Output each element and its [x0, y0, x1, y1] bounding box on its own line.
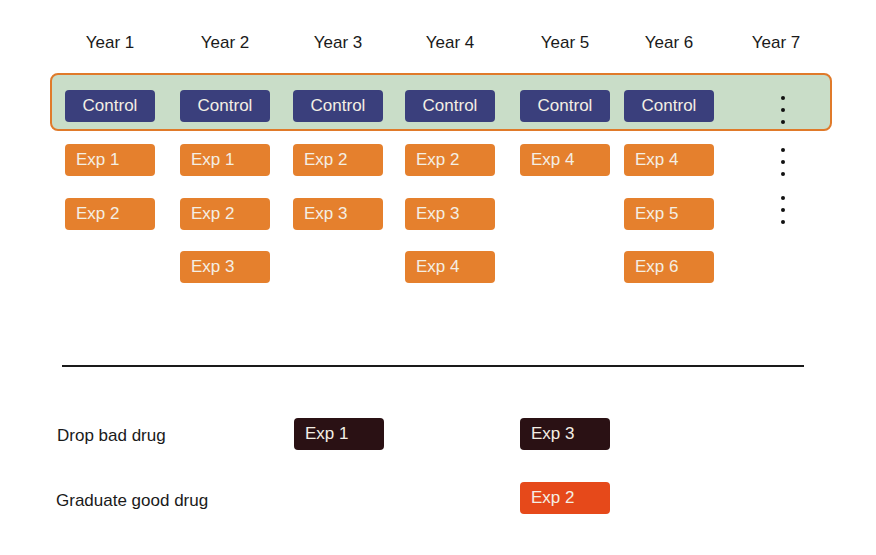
graduate-good-drug-label: Graduate good drug	[56, 491, 208, 511]
control-box-year-3: Control	[293, 90, 383, 122]
section-divider	[62, 365, 804, 367]
year-4-header: Year 4	[400, 33, 500, 53]
year-3-header: Year 3	[288, 33, 388, 53]
exp-box: Exp 4	[520, 144, 610, 176]
exp-box: Exp 4	[624, 144, 714, 176]
control-box-year-2: Control	[180, 90, 270, 122]
year-7-header: Year 7	[726, 33, 826, 53]
exp-box: Exp 4	[405, 251, 495, 283]
exp-box: Exp 3	[405, 198, 495, 230]
graduated-exp-box: Exp 2	[520, 482, 610, 514]
exp-box: Exp 5	[624, 198, 714, 230]
year-5-header: Year 5	[515, 33, 615, 53]
dropped-exp-box: Exp 1	[294, 418, 384, 450]
exp-box: Exp 3	[293, 198, 383, 230]
control-box-year-5: Control	[520, 90, 610, 122]
control-box-year-4: Control	[405, 90, 495, 122]
drop-bad-drug-label: Drop bad drug	[57, 426, 166, 446]
year-2-header: Year 2	[175, 33, 275, 53]
exp-box: Exp 6	[624, 251, 714, 283]
continuation-dots-icon	[781, 196, 785, 232]
exp-box: Exp 2	[180, 198, 270, 230]
continuation-dots-icon	[781, 148, 785, 184]
exp-box: Exp 2	[293, 144, 383, 176]
control-box-year-1: Control	[65, 90, 155, 122]
control-box-year-6: Control	[624, 90, 714, 122]
exp-box: Exp 1	[180, 144, 270, 176]
dropped-exp-box: Exp 3	[520, 418, 610, 450]
year-1-header: Year 1	[60, 33, 160, 53]
year-6-header: Year 6	[619, 33, 719, 53]
continuation-dots-icon	[781, 96, 785, 132]
exp-box: Exp 3	[180, 251, 270, 283]
exp-box: Exp 1	[65, 144, 155, 176]
exp-box: Exp 2	[405, 144, 495, 176]
exp-box: Exp 2	[65, 198, 155, 230]
